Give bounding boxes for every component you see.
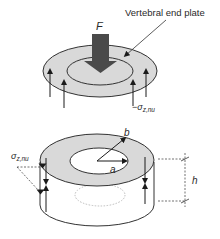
stress-leader-2 xyxy=(17,167,39,191)
bottom-figure-annulus-cylinder: a b σz,nu h xyxy=(11,127,198,226)
inner-radius-label: a xyxy=(110,164,116,175)
stress-label: σz,nu xyxy=(11,151,29,162)
end-plate-callout-label: Vertebral end plate xyxy=(125,7,205,18)
outer-radius-label: b xyxy=(124,127,130,138)
disc-mechanics-diagram: F Vertebral end plate −σz,nu a b xyxy=(0,0,220,239)
callout-leader-line xyxy=(126,20,166,55)
force-label: F xyxy=(96,20,104,32)
top-figure-end-plate: F Vertebral end plate −σz,nu xyxy=(43,7,205,113)
height-label: h xyxy=(192,175,198,186)
negative-stress-label: −σz,nu xyxy=(132,102,155,113)
